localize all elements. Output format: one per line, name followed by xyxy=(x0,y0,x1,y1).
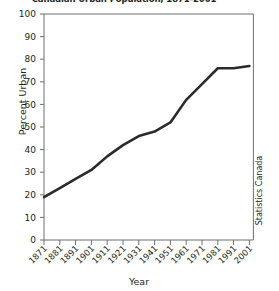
y-tick-label: 50 xyxy=(25,122,37,132)
x-tick-label: 2001 xyxy=(232,243,254,265)
axis-frame xyxy=(44,14,253,240)
chart-screenshot: Canadian Urban Population, 1871-2001 Per… xyxy=(0,0,279,291)
x-axis-ticks: 1871188118911901191119211931194119511961… xyxy=(27,240,255,266)
y-tick-label: 60 xyxy=(25,100,37,110)
y-tick-label: 90 xyxy=(25,32,37,42)
chart-svg: 0102030405060708090100 18711881189119011… xyxy=(0,0,279,291)
data-series-line xyxy=(44,66,249,197)
y-tick-label: 70 xyxy=(25,77,37,87)
y-axis-ticks: 0102030405060708090100 xyxy=(19,9,44,245)
y-tick-label: 40 xyxy=(25,145,37,155)
y-tick-label: 80 xyxy=(25,54,37,64)
plot-area: 0102030405060708090100 18711881189119011… xyxy=(0,0,279,291)
y-tick-label: 10 xyxy=(25,213,37,223)
y-tick-label: 20 xyxy=(25,190,37,200)
y-tick-label: 30 xyxy=(25,167,37,177)
y-tick-label: 100 xyxy=(19,9,36,19)
y-tick-label: 0 xyxy=(30,235,36,245)
